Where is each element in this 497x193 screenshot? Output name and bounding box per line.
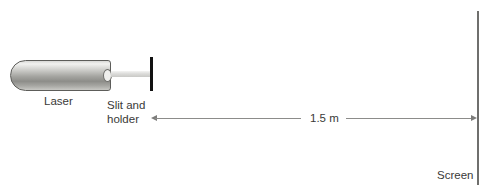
dimension-line-right [346,118,473,119]
slit-label-line2: holder [107,112,145,126]
slit-bar-icon [150,57,153,91]
screen-label: Screen [437,168,473,182]
dimension-arrow-right-icon [471,115,477,121]
dimension-label: 1.5 m [306,111,343,125]
diffraction-apparatus-diagram: Laser Slit and holder 1.5 m Screen [0,0,497,193]
laser-icon [10,60,111,91]
laser-beam-icon [111,71,152,77]
laser-label: Laser [44,94,73,108]
slit-label-line1: Slit and [107,98,145,112]
slit-label: Slit and holder [107,98,145,126]
dimension-line-left [155,118,301,119]
screen-line-icon [477,11,479,185]
